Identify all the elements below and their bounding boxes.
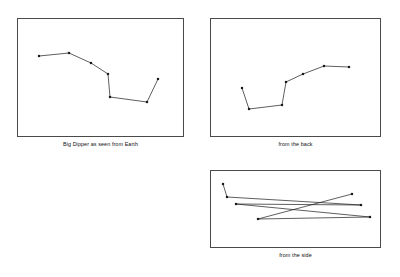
star-marker (248, 108, 250, 110)
star-plot-side (210, 170, 381, 248)
star-marker (235, 203, 237, 205)
star-marker (348, 66, 350, 68)
constellation-line-earth (39, 53, 158, 102)
star-marker (157, 78, 159, 80)
panel-big-dipper-from-side (210, 170, 381, 248)
panel-big-dipper-from-earth (17, 18, 184, 137)
star-marker (285, 81, 287, 83)
star-marker (109, 96, 111, 98)
star-marker (90, 62, 92, 64)
star-marker (38, 55, 40, 57)
star-marker (360, 204, 362, 206)
star-marker (68, 52, 70, 54)
star-marker (351, 193, 353, 195)
constellation-line-back (242, 66, 349, 109)
caption-big-dipper-from-back: from the back (210, 140, 381, 148)
star-marker (323, 65, 325, 67)
star-plot-earth (17, 18, 184, 137)
caption-big-dipper-from-earth: Big Dipper as seen from Earth (17, 140, 184, 148)
star-marker (369, 216, 371, 218)
star-plot-back (210, 18, 381, 137)
panel-big-dipper-from-back (210, 18, 381, 137)
star-marker (241, 87, 243, 89)
big-dipper-figure: Big Dipper as seen from Earth from the b… (0, 0, 400, 277)
star-marker (302, 73, 304, 75)
star-marker (107, 73, 109, 75)
star-marker (226, 196, 228, 198)
star-marker (257, 218, 259, 220)
star-marker (281, 104, 283, 106)
constellation-line-side (223, 184, 370, 219)
star-marker (222, 183, 224, 185)
caption-big-dipper-from-side: from the side (210, 251, 381, 259)
star-marker (146, 101, 148, 103)
